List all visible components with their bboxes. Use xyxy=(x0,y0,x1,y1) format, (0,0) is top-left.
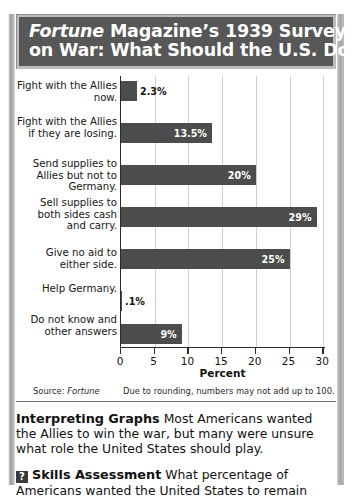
figure-content: Fortune Magazine’s 1939 Survey on War: W… xyxy=(15,7,337,485)
chart-rounding-note: Due to rounding, numbers may not add up … xyxy=(123,386,335,396)
bar-chart: Fight with the Allies now. Fight with th… xyxy=(16,76,336,386)
chart-plot-area: 2.3% 13.5% 20% 29% 25% .1 xyxy=(120,76,325,348)
bar-value-no-aid: 25% xyxy=(262,254,285,265)
x-tick-label-0: 0 xyxy=(117,355,124,367)
x-tick-0 xyxy=(120,348,121,354)
figure-title-banner: Fortune Magazine’s 1939 Survey on War: W… xyxy=(16,14,336,69)
category-label-no-aid: Give no aid to either side. xyxy=(16,247,117,270)
category-label-sell-both-sides: Sell supplies to both sides cash and car… xyxy=(16,197,117,232)
x-tick-5 xyxy=(154,348,155,354)
page-frame-right-edge xyxy=(337,14,344,485)
interpreting-graphs-block: Interpreting Graphs Most Americans wante… xyxy=(16,402,336,457)
x-axis-title: Percent xyxy=(120,367,325,379)
chart-plot-area-wrapper: Fight with the Allies now. Fight with th… xyxy=(16,76,336,354)
x-tick-label-20: 20 xyxy=(248,355,261,367)
chart-source: Source: Fortune xyxy=(33,386,100,396)
bar-value-do-not-know: 9% xyxy=(160,329,176,340)
figure-title-magazine-name: Fortune xyxy=(29,21,104,41)
x-tick-30 xyxy=(322,348,323,354)
figure-title-line-1-rest: Magazine’s 1939 Survey xyxy=(104,21,346,41)
x-tick-label-5: 5 xyxy=(150,355,157,367)
figure-title-line-1: Fortune Magazine’s 1939 Survey xyxy=(29,22,325,41)
x-tick-label-25: 25 xyxy=(282,355,295,367)
chart-source-prefix: Source: xyxy=(33,386,67,396)
bar-value-send-supplies: 20% xyxy=(228,170,251,181)
gridline-30 xyxy=(323,76,324,347)
category-label-do-not-know: Do not know and other answers xyxy=(16,314,117,337)
bar-help-germany: .1% xyxy=(121,291,122,311)
bar-fight-if-losing: 13.5% xyxy=(121,123,212,143)
bar-no-aid: 25% xyxy=(121,249,290,269)
bar-value-sell-both-sides: 29% xyxy=(289,212,312,223)
x-tick-label-30: 30 xyxy=(316,355,329,367)
bar-sell-both-sides: 29% xyxy=(121,207,317,227)
x-tick-label-10: 10 xyxy=(181,355,194,367)
bar-fight-now: 2.3% xyxy=(121,81,137,101)
category-label-send-supplies: Send supplies to Allies but not to Germa… xyxy=(16,158,117,193)
bar-value-help-germany: .1% xyxy=(125,296,145,307)
bar-send-supplies: 20% xyxy=(121,165,256,185)
category-label-fight-if-losing: Fight with the Allies if they are losing… xyxy=(16,116,117,139)
x-axis: 0 5 10 15 20 25 30 Percent xyxy=(120,348,325,384)
x-tick-25 xyxy=(289,348,290,354)
bar-do-not-know: 9% xyxy=(121,324,182,344)
x-tick-20 xyxy=(255,348,256,354)
interpreting-graphs-heading: Interpreting Graphs xyxy=(16,411,160,426)
category-label-column: Fight with the Allies now. Fight with th… xyxy=(16,76,119,348)
x-tick-label-15: 15 xyxy=(214,355,227,367)
bar-value-fight-now: 2.3% xyxy=(140,86,167,97)
skills-assessment-heading: Skills Assessment xyxy=(32,467,161,482)
category-label-help-germany: Help Germany. xyxy=(16,283,117,295)
chart-source-publication: Fortune xyxy=(67,386,99,396)
skills-assessment-block: ?Skills Assessment What percentage of Am… xyxy=(16,457,336,498)
bar-value-fight-if-losing: 13.5% xyxy=(174,128,207,139)
category-label-fight-now: Fight with the Allies now. xyxy=(16,80,117,103)
x-tick-10 xyxy=(187,348,188,354)
figure-title-line-2: on War: What Should the U.S. Do? xyxy=(29,41,325,60)
question-mark-icon: ? xyxy=(16,471,28,483)
x-tick-15 xyxy=(221,348,222,354)
page-frame-left-edge xyxy=(8,14,15,485)
source-note-row: Source: Fortune Due to rounding, numbers… xyxy=(16,386,336,402)
